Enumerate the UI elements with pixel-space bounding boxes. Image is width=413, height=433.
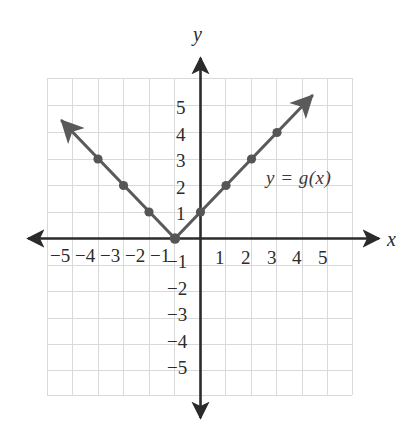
graph-figure: y x −5 −4 −3 −2 −1 1 2 3 4 5 5 4 3 2 1 −…: [0, 0, 413, 433]
data-point: [170, 233, 180, 243]
x-tick-label-3: 3: [267, 248, 277, 267]
x-tick-label-neg4: −4: [75, 246, 95, 265]
y-tick-label-neg2: −2: [167, 279, 187, 298]
y-axis-label: y: [193, 24, 202, 44]
data-point: [196, 207, 205, 216]
y-tick-label-neg5: −5: [167, 358, 187, 377]
data-point: [93, 154, 102, 163]
y-tick-label-neg3: −3: [167, 305, 187, 324]
function-label: y = g(x): [266, 168, 331, 187]
y-tick-label-5: 5: [176, 98, 186, 117]
y-tick-label-neg1: −1: [167, 252, 187, 271]
y-tick-label-1: 1: [176, 204, 186, 223]
x-tick-label-1: 1: [215, 248, 225, 267]
coordinate-plane-svg: [0, 0, 413, 433]
y-tick-label-3: 3: [176, 151, 186, 170]
x-axis-label: x: [387, 229, 396, 249]
x-tick-label-5: 5: [318, 248, 328, 267]
data-point: [247, 154, 256, 163]
data-point: [119, 181, 128, 190]
y-tick-label-2: 2: [176, 178, 186, 197]
data-point: [221, 181, 230, 190]
x-tick-label-4: 4: [292, 248, 302, 267]
x-tick-label-2: 2: [241, 248, 251, 267]
x-tick-label-neg2: −2: [125, 246, 145, 265]
y-tick-label-4: 4: [176, 125, 186, 144]
data-point: [144, 207, 153, 216]
x-tick-label-neg5: −5: [50, 246, 70, 265]
y-tick-label-neg4: −4: [167, 332, 187, 351]
data-point: [272, 128, 281, 137]
x-tick-label-neg3: −3: [100, 246, 120, 265]
